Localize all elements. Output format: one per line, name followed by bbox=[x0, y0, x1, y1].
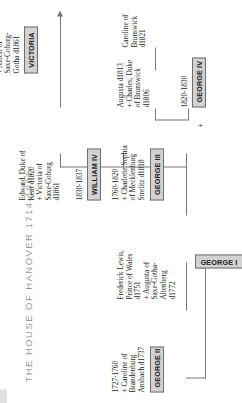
node-george4-detail: 1820-1830 bbox=[181, 47, 190, 107]
node-george2-detail: 1727-1760 + Caroline of Brandenburg Ansb… bbox=[112, 300, 146, 392]
node-george3-label: GEORGE III bbox=[153, 153, 162, 194]
family-tree-canvas: THE HOUSE OF HANOVER 1714-1901 GEORGE I … bbox=[0, 0, 242, 403]
node-william4-label: WILLIAM IV bbox=[90, 153, 99, 194]
node-victoria[interactable]: VICTORIA bbox=[24, 26, 38, 73]
node-george2[interactable]: GEORGE II bbox=[150, 346, 164, 392]
node-victoria-detail: 1837-1901 + Albert of Saxe-Coburg- Gotha… bbox=[0, 0, 21, 73]
branch-augusta bbox=[155, 108, 156, 120]
page-title: THE HOUSE OF HANOVER 1714-1901 bbox=[23, 170, 34, 382]
marriage-symbol-george4: + bbox=[196, 122, 205, 127]
branch-george4 bbox=[188, 108, 189, 120]
node-george1-label: GEORGE I bbox=[201, 257, 238, 266]
connector-augusta-caroline bbox=[155, 47, 156, 70]
node-frederick-detail: Frederick Lewis, Prince of Wales d1751 +… bbox=[117, 203, 177, 299]
node-george4[interactable]: GEORGE IV bbox=[192, 57, 206, 107]
connector-frederick-george3 bbox=[186, 167, 187, 215]
node-george4-label: GEORGE IV bbox=[195, 60, 204, 102]
node-george1[interactable]: GEORGE I bbox=[195, 254, 242, 268]
george3-children-bus bbox=[155, 119, 188, 120]
node-edward-detail: Edward, Duke of Kent d1820 + Victoria of… bbox=[19, 104, 62, 200]
node-caroline-detail: Caroline of Brunswick d1821 bbox=[122, 0, 148, 47]
node-victoria-label: VICTORIA bbox=[27, 32, 36, 67]
node-george3[interactable]: GEORGE III bbox=[150, 148, 164, 200]
victoria-descent-line bbox=[60, 15, 61, 73]
branch-george3 bbox=[186, 153, 187, 167]
connector-george2-frederick bbox=[186, 262, 187, 310]
node-george2-label: GEORGE II bbox=[153, 348, 162, 387]
node-william4-detail: 1830-1837 bbox=[76, 140, 85, 200]
scan-artifact bbox=[0, 389, 7, 403]
connector-george2-stem bbox=[186, 377, 206, 378]
node-george3-detail: 1760-1820 + Charlotte Sophia of Mecklenb… bbox=[112, 100, 146, 200]
node-william4[interactable]: WILLIAM IV bbox=[87, 148, 101, 200]
connector-george1-george2 bbox=[205, 268, 206, 378]
connector-edward-victoria bbox=[60, 73, 61, 107]
descent-arrow-icon bbox=[57, 10, 63, 16]
